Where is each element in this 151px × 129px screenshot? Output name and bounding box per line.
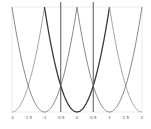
vertical-lines [61,2,94,112]
x-tick-label: 1 [108,115,111,120]
curve-0 [12,7,45,112]
x-tick-label: 1.5 [123,115,130,120]
x-tick-label: -2 [10,115,14,120]
x-tick-label: 2 [141,115,144,120]
x-tick-label: -0.5 [57,115,65,120]
x-tick-label: 0 [76,115,79,120]
x-axis-ticks: -2-1.5-1-0.500.511.52 [10,115,144,120]
curves [12,7,142,112]
parabola-chart: -2-1.5-1-0.500.511.52 [0,0,151,129]
curve-3 [77,7,142,112]
x-tick-label: 0.5 [90,115,97,120]
curve-1 [12,7,77,112]
x-tick-label: -1 [43,115,47,120]
curve-4 [110,7,143,112]
curve-2 [45,7,110,112]
x-tick-label: -1.5 [24,115,32,120]
